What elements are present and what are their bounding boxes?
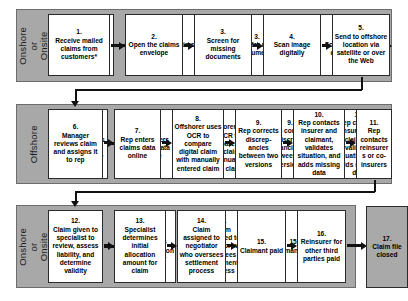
overlay-layer: 17.Claim file closed [0, 0, 408, 301]
arrow-16-to-17 [347, 244, 361, 247]
process-node-17-label: Claim file closed [372, 243, 401, 258]
process-node-17-text: 17.Claim file closed [368, 235, 406, 260]
connector-band2-band3-h [75, 191, 375, 193]
connector-band1-band2-head [71, 101, 79, 107]
connector-band2-band3-head [71, 201, 79, 207]
process-node-17-number: 17. [368, 235, 406, 243]
process-node-17[interactable]: 17.Claim file closed [366, 206, 408, 288]
connector-band1-band2-h [75, 89, 362, 91]
